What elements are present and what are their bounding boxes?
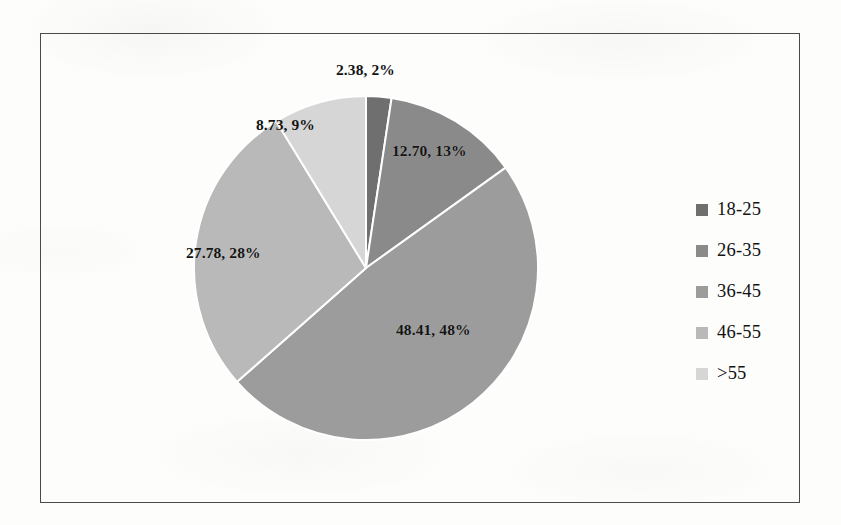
legend-swatch-icon [696, 327, 708, 339]
chart-frame: 2.38, 2% 12.70, 13% 48.41, 48% 27.78, 28… [40, 33, 800, 503]
slice-label-18-25: 2.38, 2% [336, 61, 395, 79]
legend-swatch-icon [696, 368, 708, 380]
legend-item-46-55[interactable]: 46-55 [696, 312, 826, 353]
legend-swatch-icon [696, 204, 708, 216]
slice-label-26-35: 12.70, 13% [392, 142, 467, 160]
legend-item-18-25[interactable]: 18-25 [696, 189, 826, 230]
plot-area: 2.38, 2% 12.70, 13% 48.41, 48% 27.78, 28… [41, 34, 799, 502]
legend-item-label: 46-55 [717, 323, 761, 342]
legend-item-26-35[interactable]: 26-35 [696, 230, 826, 271]
legend-item-label: 36-45 [717, 282, 761, 301]
chart-legend: 18-2526-3536-4546-55>55 [696, 189, 826, 394]
slice-label-36-45: 48.41, 48% [396, 321, 471, 339]
slice-label-gt55: 8.73, 9% [256, 116, 315, 134]
legend-item-label: 18-25 [717, 200, 761, 219]
pie-slices [194, 96, 538, 440]
slice-label-46-55: 27.78, 28% [186, 244, 261, 262]
pie-chart-graphic [41, 34, 801, 504]
legend-item-55[interactable]: >55 [696, 353, 826, 394]
legend-item-label: >55 [717, 364, 747, 383]
legend-item-label: 26-35 [717, 241, 761, 260]
legend-swatch-icon [696, 286, 708, 298]
legend-item-36-45[interactable]: 36-45 [696, 271, 826, 312]
legend-swatch-icon [696, 245, 708, 257]
